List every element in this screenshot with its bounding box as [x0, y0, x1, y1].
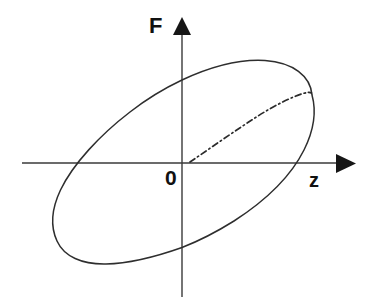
figure-canvas — [0, 0, 370, 308]
x-axis-label: z — [309, 170, 319, 190]
x-axis-arrowhead — [336, 154, 356, 173]
y-axis-arrowhead — [173, 17, 191, 35]
origin-label: 0 — [165, 167, 177, 188]
hysteresis-loop-curve — [53, 60, 314, 264]
hysteresis-figure: F z 0 — [0, 0, 370, 308]
backbone-skeleton-curve — [190, 92, 312, 162]
y-axis-label: F — [149, 15, 162, 37]
